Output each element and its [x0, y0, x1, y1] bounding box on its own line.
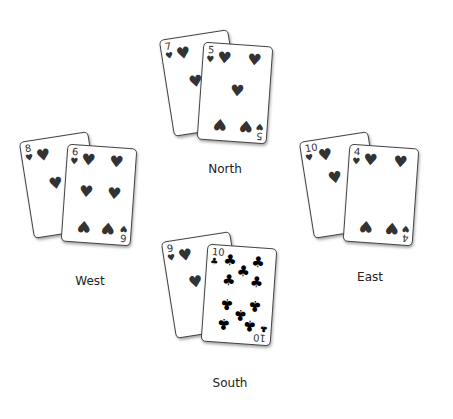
heart-icon: ♥	[76, 218, 91, 235]
heart-icon: ♥	[109, 154, 124, 171]
club-icon: ♣	[210, 257, 219, 267]
heart-icon: ♥	[358, 218, 373, 235]
player-label-south: South	[190, 376, 270, 390]
heart-icon: ♥	[393, 154, 408, 171]
heart-icon: ♥	[175, 44, 192, 62]
heart-icon: ♥	[247, 52, 262, 69]
player-label-north: North	[185, 162, 265, 176]
heart-icon: ♥	[352, 157, 361, 167]
club-icon: ♣	[220, 296, 235, 313]
heart-icon: ♥	[81, 152, 96, 169]
heart-icon: ♥	[401, 224, 410, 234]
heart-icon: ♥	[119, 224, 128, 234]
heart-icon: ♥	[79, 184, 94, 201]
heart-icon: ♥	[305, 153, 314, 163]
player-label-east: East	[330, 270, 410, 284]
heart-icon: ♥	[100, 219, 115, 236]
card-east-front[interactable]: 4 ♥ 4 ♥ ♥ ♥ ♥ ♥	[343, 144, 420, 247]
heart-icon: ♥	[70, 157, 79, 167]
card-south-front[interactable]: 10 ♣ 10 ♣ ♣ ♣ ♣ ♣ ♣ ♣ ♣ ♣ ♣ ♣	[201, 244, 278, 347]
heart-icon: ♥	[167, 253, 176, 263]
card-west-front[interactable]: 6 ♥ 6 ♥ ♥ ♥ ♥ ♥ ♥ ♥	[61, 144, 138, 247]
club-icon: ♣	[221, 272, 236, 289]
heart-icon: ♥	[206, 55, 215, 65]
card-rank: 4	[401, 233, 408, 243]
player-label-west: West	[50, 274, 130, 288]
heart-icon: ♥	[187, 273, 204, 291]
heart-icon: ♥	[317, 146, 334, 164]
club-icon: ♣	[223, 252, 238, 269]
heart-icon: ♥	[230, 83, 245, 100]
club-icon: ♣	[216, 316, 231, 333]
heart-icon: ♥	[217, 50, 232, 67]
heart-icon: ♥	[327, 169, 344, 187]
club-icon: ♣	[242, 317, 257, 334]
heart-icon: ♥	[35, 146, 52, 164]
heart-icon: ♥	[238, 117, 253, 134]
heart-icon: ♥	[255, 122, 264, 132]
club-icon: ♣	[248, 298, 263, 315]
card-rank: 5	[255, 131, 262, 141]
heart-icon: ♥	[48, 175, 65, 193]
heart-icon: ♥	[363, 152, 378, 169]
club-icon: ♣	[259, 324, 268, 334]
heart-icon: ♥	[25, 153, 34, 163]
heart-icon: ♥	[384, 219, 399, 236]
club-icon: ♣	[236, 263, 251, 280]
club-icon: ♣	[251, 254, 266, 271]
heart-icon: ♥	[212, 116, 227, 133]
card-north-front[interactable]: 5 ♥ 5 ♥ ♥ ♥ ♥ ♥ ♥	[197, 42, 274, 145]
heart-icon: ♥	[177, 246, 194, 264]
heart-icon: ♥	[165, 51, 174, 61]
heart-icon: ♥	[107, 186, 122, 203]
card-rank: 6	[119, 233, 126, 243]
club-icon: ♣	[249, 274, 264, 291]
